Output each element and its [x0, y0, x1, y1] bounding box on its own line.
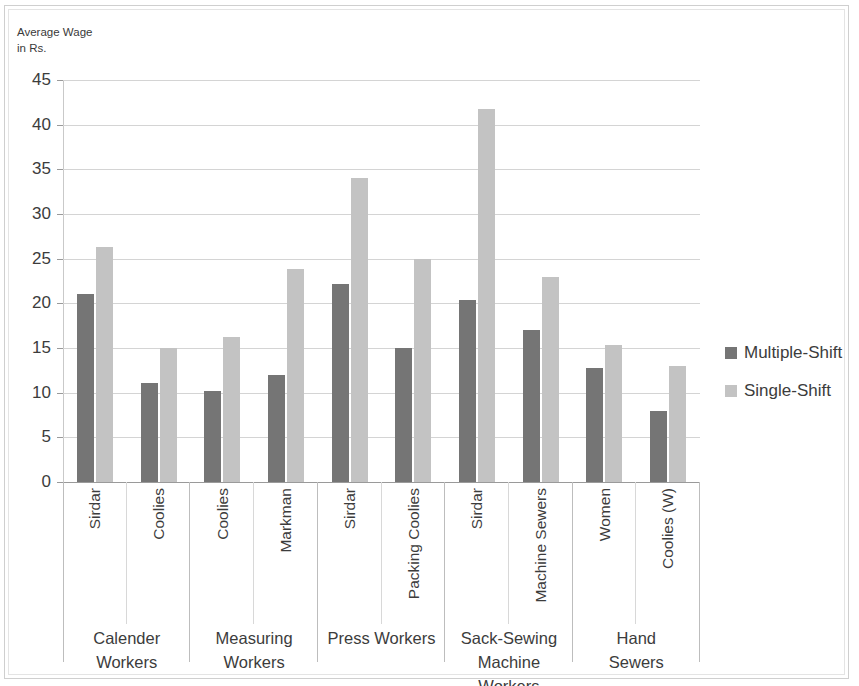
bar-multiple-shift	[268, 375, 285, 482]
bar-group	[318, 80, 445, 482]
bar-pair	[63, 80, 127, 482]
category-group: WomenCoolies (W)	[573, 482, 700, 624]
y-tick-label: 25	[7, 249, 51, 269]
legend-label: Multiple-Shift	[744, 343, 842, 363]
y-tick-label: 5	[7, 427, 51, 447]
bar-single-shift	[351, 178, 368, 482]
category-label-text: Coolies	[151, 488, 167, 540]
bar-single-shift	[287, 269, 304, 482]
category-group: SirdarCoolies	[63, 482, 190, 624]
bar-multiple-shift	[332, 284, 349, 482]
y-tick-label: 10	[7, 383, 51, 403]
category-group: SirdarMachine Sewers	[445, 482, 572, 624]
legend-item[interactable]: Single-Shift	[725, 381, 842, 401]
bar-multiple-shift	[586, 368, 603, 482]
bar-multiple-shift	[459, 300, 476, 482]
category-label-cell: Machine Sewers	[509, 482, 573, 624]
bar-pair	[254, 80, 318, 482]
bar-multiple-shift	[523, 330, 540, 482]
bar-chart-figure: Average Wage in Rs. 454035302520151050 S…	[0, 0, 859, 686]
bar-pair	[382, 80, 446, 482]
legend-swatch-icon	[725, 347, 737, 359]
bar-single-shift	[96, 247, 113, 482]
category-label-cell: Coolies (W)	[636, 482, 700, 624]
group-name: Sack-Sewing Machine Workers	[445, 624, 572, 682]
bar-pair	[318, 80, 382, 482]
group-name: Calender Workers	[63, 624, 190, 682]
bar-multiple-shift	[141, 383, 158, 482]
bar-single-shift	[414, 259, 431, 482]
category-label-text: Markman	[278, 488, 294, 553]
bar-multiple-shift	[650, 411, 667, 482]
category-label-text: Coolies (W)	[660, 488, 676, 569]
group-name-labels: Calender WorkersMeasuring WorkersPress W…	[63, 624, 700, 682]
bar-group	[445, 80, 572, 482]
category-label-text: Machine Sewers	[533, 488, 549, 603]
y-tick-label: 40	[7, 115, 51, 135]
y-tick-label: 0	[7, 472, 51, 492]
bar-pair	[636, 80, 700, 482]
bar-group	[63, 80, 190, 482]
bar-group	[190, 80, 317, 482]
category-label-cell: Coolies	[190, 482, 254, 624]
bar-multiple-shift	[395, 348, 412, 482]
category-label-text: Packing Coolies	[406, 488, 422, 599]
bar-single-shift	[160, 348, 177, 482]
legend-label: Single-Shift	[744, 381, 831, 401]
category-label-cell: Packing Coolies	[382, 482, 446, 624]
bar-multiple-shift	[77, 294, 94, 482]
category-label-cell: Sirdar	[445, 482, 509, 624]
y-tick-label: 20	[7, 293, 51, 313]
plot-area: 454035302520151050	[63, 80, 700, 482]
category-label-text: Sirdar	[87, 488, 103, 529]
bar-single-shift	[669, 366, 686, 482]
y-tick-label: 45	[7, 70, 51, 90]
legend-item[interactable]: Multiple-Shift	[725, 343, 842, 363]
category-label-cell: Sirdar	[318, 482, 382, 624]
group-name: Measuring Workers	[190, 624, 317, 682]
category-label-text: Sirdar	[469, 488, 485, 529]
group-name: Hand Sewers	[573, 624, 700, 682]
bar-groups	[63, 80, 700, 482]
bar-pair	[190, 80, 254, 482]
bar-multiple-shift	[204, 391, 221, 482]
bar-single-shift	[223, 337, 240, 482]
bar-single-shift	[605, 345, 622, 482]
y-axis-title: Average Wage in Rs.	[17, 24, 92, 56]
bar-pair	[573, 80, 637, 482]
category-label-text: Women	[597, 488, 613, 541]
group-name: Press Workers	[318, 624, 445, 682]
bar-pair	[445, 80, 509, 482]
category-group: CooliesMarkman	[190, 482, 317, 624]
category-label-cell: Women	[573, 482, 637, 624]
category-labels: SirdarCooliesCooliesMarkmanSirdarPacking…	[63, 482, 700, 624]
y-tick-label: 30	[7, 204, 51, 224]
y-tick-label: 35	[7, 159, 51, 179]
legend-swatch-icon	[725, 385, 737, 397]
category-group: SirdarPacking Coolies	[318, 482, 445, 624]
bar-group	[573, 80, 700, 482]
y-tick-label: 15	[7, 338, 51, 358]
bar-pair	[509, 80, 573, 482]
category-label-cell: Sirdar	[63, 482, 127, 624]
category-label-cell: Coolies	[127, 482, 191, 624]
category-label-text: Sirdar	[342, 488, 358, 529]
category-label-text: Coolies	[215, 488, 231, 540]
chart-legend: Multiple-ShiftSingle-Shift	[725, 343, 842, 401]
bar-single-shift	[542, 277, 559, 482]
bar-pair	[127, 80, 191, 482]
bar-single-shift	[478, 109, 495, 482]
category-label-cell: Markman	[254, 482, 318, 624]
